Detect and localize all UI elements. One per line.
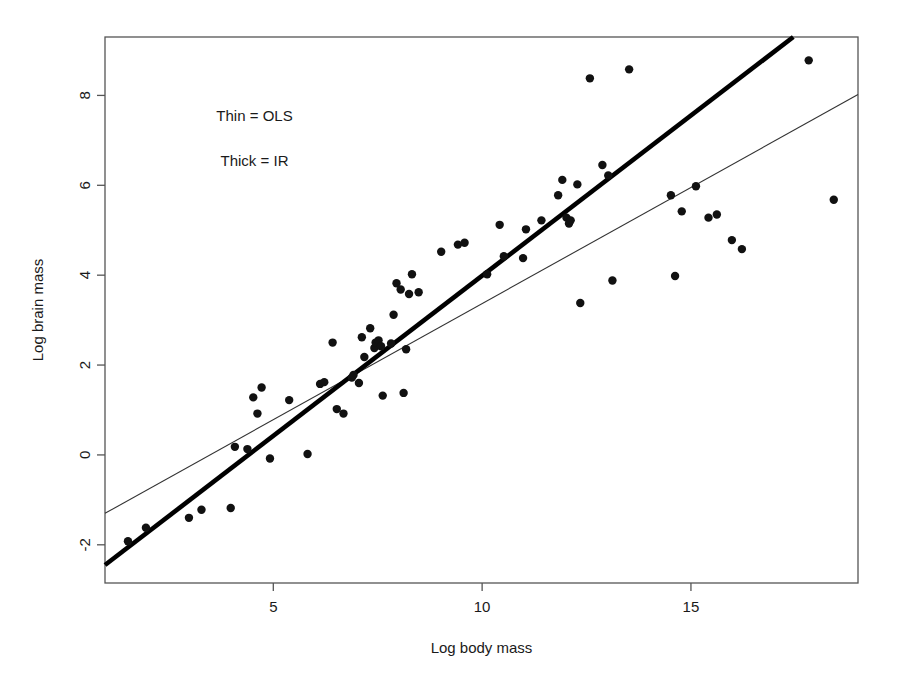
- data-point: [537, 216, 545, 224]
- data-point: [713, 210, 721, 218]
- data-point: [389, 311, 397, 319]
- data-point: [805, 56, 813, 64]
- scatter-plot-figure: 51015 -202468 Thin = OLSThick = IR Log b…: [0, 0, 902, 680]
- data-point: [366, 324, 374, 332]
- y-axis-title: Log brain mass: [29, 259, 46, 362]
- legend-annotation: Thick = IR: [221, 152, 289, 169]
- data-point: [692, 182, 700, 190]
- x-tick-label: 10: [474, 598, 491, 615]
- figure-background: [0, 0, 902, 680]
- data-point: [586, 74, 594, 82]
- data-point: [197, 506, 205, 514]
- data-point: [185, 514, 193, 522]
- data-point: [522, 225, 530, 233]
- data-point: [124, 537, 132, 545]
- data-point: [405, 290, 413, 298]
- data-point: [500, 252, 508, 260]
- data-point: [285, 396, 293, 404]
- data-point: [566, 216, 574, 224]
- data-point: [830, 195, 838, 203]
- data-point: [253, 409, 261, 417]
- data-point: [728, 236, 736, 244]
- data-point: [519, 254, 527, 262]
- data-point: [573, 180, 581, 188]
- data-point: [360, 353, 368, 361]
- data-point: [738, 245, 746, 253]
- data-point: [243, 445, 251, 453]
- data-point: [678, 207, 686, 215]
- data-point: [257, 383, 265, 391]
- data-point: [604, 171, 612, 179]
- data-point: [249, 393, 257, 401]
- data-point: [303, 450, 311, 458]
- data-point: [402, 345, 410, 353]
- y-tick-label: 8: [77, 91, 94, 99]
- data-point: [266, 454, 274, 462]
- data-point: [396, 285, 404, 293]
- data-point: [598, 161, 606, 169]
- x-axis-title: Log body mass: [431, 639, 533, 656]
- y-tick-label: 4: [77, 271, 94, 279]
- y-tick-label: 0: [77, 451, 94, 459]
- data-point: [625, 65, 633, 73]
- data-point: [667, 191, 675, 199]
- y-tick-label: 2: [77, 361, 94, 369]
- data-point: [671, 272, 679, 280]
- legend-annotation: Thin = OLS: [216, 107, 292, 124]
- data-point: [231, 443, 239, 451]
- data-point: [377, 342, 385, 350]
- data-point: [339, 409, 347, 417]
- data-point: [387, 339, 395, 347]
- data-point: [460, 239, 468, 247]
- data-point: [408, 270, 416, 278]
- data-point: [608, 276, 616, 284]
- x-tick-label: 15: [683, 598, 700, 615]
- data-point: [558, 176, 566, 184]
- data-point: [414, 288, 422, 296]
- data-point: [328, 338, 336, 346]
- data-point: [483, 270, 491, 278]
- y-tick-label: 6: [77, 181, 94, 189]
- data-point: [355, 379, 363, 387]
- data-point: [399, 389, 407, 397]
- data-point: [379, 391, 387, 399]
- x-tick-label: 5: [269, 598, 277, 615]
- y-tick-label: -2: [77, 538, 94, 551]
- data-point: [554, 191, 562, 199]
- data-point: [142, 524, 150, 532]
- data-point: [358, 333, 366, 341]
- data-point: [576, 299, 584, 307]
- data-point: [495, 221, 503, 229]
- data-point: [704, 213, 712, 221]
- data-point: [437, 248, 445, 256]
- data-point: [227, 504, 235, 512]
- data-point: [349, 371, 357, 379]
- data-point: [320, 378, 328, 386]
